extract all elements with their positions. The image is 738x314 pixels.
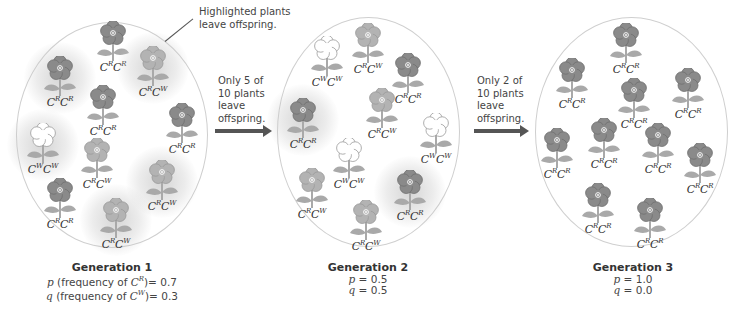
genotype-label: CRCW [368,127,397,141]
selection-note-1: Only 5 of 10 plants leave offspring. [218,75,265,125]
highlight-annotation-line-1: Highlighted plants [199,6,291,19]
annotation-leader-line [165,18,194,41]
selection-note-2-line-3: leave [477,100,524,113]
genotype-label: CRCW [148,199,177,213]
genotype-label: CRCW [354,62,383,76]
genotype-label: CRCR [687,182,714,196]
generation-1-caption: Generation 1 p (frequency of CR)= 0.7 q … [46,262,178,302]
genotype-label: CRCR [397,209,424,223]
generation-2-caption: Generation 2 p = 0.5 q = 0.5 [328,262,409,297]
generation-1-q-frequency: q (frequency of CW)= 0.3 [46,288,178,302]
generation-3-q-frequency: q = 0.0 [593,285,674,297]
genotype-label: CRCR [637,237,664,251]
genotype-label: CRCR [591,157,618,171]
genotype-label: CRCR [645,162,672,176]
genotype-label: CRCR [559,97,586,111]
genotype-label: CRCW [102,237,131,251]
arrow-right-icon [215,129,264,133]
selection-note-2-line-1: Only 2 of [477,75,524,88]
selection-note-2-line-2: 10 plants [477,88,524,101]
genotype-label: CRCW [298,207,327,221]
generation-2-q-frequency: q = 0.5 [328,285,409,297]
genotype-label: CRCR [675,107,702,121]
genotype-label: CRCR [47,217,74,231]
highlight-annotation-line-2: leave offspring. [199,19,291,32]
genotype-label: CRCR [544,167,571,181]
genotype-label: CRCR [290,137,317,151]
generation-1-title: Generation 1 [46,262,178,274]
generation-3-caption: Generation 3 p = 1.0 q = 0.0 [593,262,674,297]
genotype-label: CRCR [47,95,74,109]
genotype-label: CRCR [90,124,117,138]
genotype-label: CRCR [613,62,640,76]
selection-note-2-line-4: offspring. [477,113,524,126]
genotype-label: CRCW [352,239,381,253]
genotype-label: CWCW [28,162,58,176]
genotype-label: CRCW [139,85,168,99]
highlight-annotation: Highlighted plants leave offspring. [199,6,291,31]
selection-note-2: Only 2 of 10 plants leave offspring. [477,75,524,125]
selection-note-1-line-3: leave [218,100,265,113]
arrow-right-icon [474,129,521,133]
selection-note-1-line-4: offspring. [218,113,265,126]
selection-note-1-line-1: Only 5 of [218,75,265,88]
genotype-label: CWCW [334,177,364,191]
selection-note-1-line-2: 10 plants [218,88,265,101]
generation-1-p-frequency: p (frequency of CR)= 0.7 [46,274,178,288]
genotype-label: CRCR [585,222,612,236]
